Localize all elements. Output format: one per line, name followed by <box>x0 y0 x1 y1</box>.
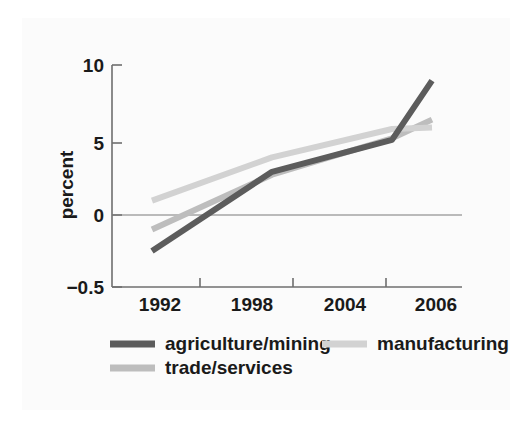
y-tick-label-neg05: −0.5 <box>66 277 104 298</box>
chart-figure: 10 5 0 −0.5 percent 1992 1998 2004 2006 … <box>0 0 531 424</box>
x-tick-label-1998: 1998 <box>231 294 273 315</box>
x-tick-label-2004: 2004 <box>324 294 367 315</box>
series-group <box>152 81 432 251</box>
legend-label-agriculture-mining[interactable]: agriculture/mining <box>165 333 331 354</box>
series-line-trade-services <box>152 120 432 230</box>
y-tick-label-5: 5 <box>93 133 104 154</box>
line-chart: 10 5 0 −0.5 percent 1992 1998 2004 2006 … <box>0 0 531 424</box>
y-tick-label-10: 10 <box>83 55 104 76</box>
y-tick-label-0: 0 <box>93 205 104 226</box>
series-line-agriculture-mining <box>152 81 432 251</box>
y-axis-title: percent <box>56 150 77 219</box>
legend-label-manufacturing[interactable]: manufacturing <box>377 333 509 354</box>
x-tick-label-2006: 2006 <box>415 294 457 315</box>
legend-label-trade-services[interactable]: trade/services <box>165 357 293 378</box>
chart-legend: agriculture/mining manufacturing trade/s… <box>110 333 509 378</box>
x-tick-label-1992: 1992 <box>139 294 181 315</box>
